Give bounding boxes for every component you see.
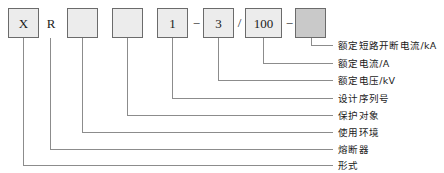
code-box-seg1[interactable]: X: [8, 8, 39, 38]
code-separator-sep1: −: [190, 17, 203, 30]
model-designation-diagram: XR1−3/100− 额定短路开断电流/kA额定电流/A额定电压/kV设计序列号…: [0, 0, 444, 173]
leader-line-c3: [218, 38, 333, 80]
leader-line-c8: [23, 38, 333, 165]
leader-line-c5: [127, 38, 333, 115]
callout-label-c3: 额定电压/kV: [338, 76, 395, 86]
callout-label-c4: 设计序列号: [338, 94, 390, 104]
leader-line-c1: [311, 38, 333, 45]
callout-label-c2: 额定电流/A: [338, 59, 390, 69]
code-char-seg2: R: [44, 17, 58, 30]
callout-label-c1: 额定短路开断电流/kA: [338, 41, 437, 51]
callout-label-c7: 熔断器: [338, 145, 369, 155]
callout-label-c5: 保护对象: [338, 111, 379, 121]
code-box-seg4[interactable]: [112, 8, 143, 38]
code-box-seg7[interactable]: 100: [245, 8, 282, 38]
code-separator-sep2: /: [234, 16, 245, 29]
leader-line-c4: [172, 38, 333, 98]
code-box-seg8[interactable]: [295, 8, 326, 38]
code-box-seg6[interactable]: 3: [203, 8, 234, 38]
callout-label-c6: 使用环境: [338, 128, 379, 138]
leader-line-c2: [263, 38, 333, 63]
code-box-seg3[interactable]: [67, 8, 98, 38]
callout-label-c8: 形式: [338, 161, 359, 171]
leader-line-c6: [82, 38, 333, 132]
code-box-seg5[interactable]: 1: [157, 8, 188, 38]
